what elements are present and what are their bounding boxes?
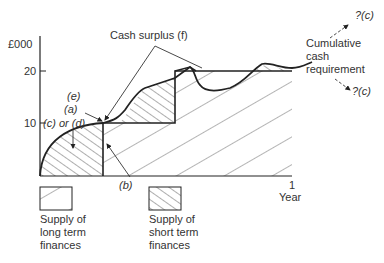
legend-short-term-swatch (149, 187, 181, 210)
cumulative-label-2: cash (306, 50, 329, 63)
y-tick-20: 20 (24, 65, 36, 78)
y-axis-unit: £000 (8, 38, 32, 51)
label-b: (b) (119, 179, 132, 192)
legend-short-term-line1: Supply of (149, 213, 195, 226)
cumulative-label-3: requirement (306, 63, 365, 76)
legend-long-term-line1: Supply of (40, 213, 86, 226)
x-axis-label: Year (279, 191, 301, 204)
legend-long-term-swatch (40, 187, 72, 210)
label-e: (e) (67, 90, 80, 103)
cumulative-label-1: Cumulative (306, 37, 361, 50)
legend-long-term-line3: finances (40, 239, 81, 252)
q-c-up: ?(c) (355, 9, 374, 22)
label-c-or-d: (c) or (d) (43, 117, 85, 130)
cash-surplus-label: Cash surplus (f) (110, 29, 188, 42)
legend-long-term-line2: long term (40, 226, 86, 239)
legend-short-term-line2: short term (149, 226, 199, 239)
y-tick-10: 10 (24, 117, 36, 130)
label-a: (a) (64, 103, 77, 116)
legend-short-term-line3: finances (149, 239, 190, 252)
short-term-area-2 (120, 78, 175, 123)
q-c-down: ?(c) (352, 85, 371, 98)
